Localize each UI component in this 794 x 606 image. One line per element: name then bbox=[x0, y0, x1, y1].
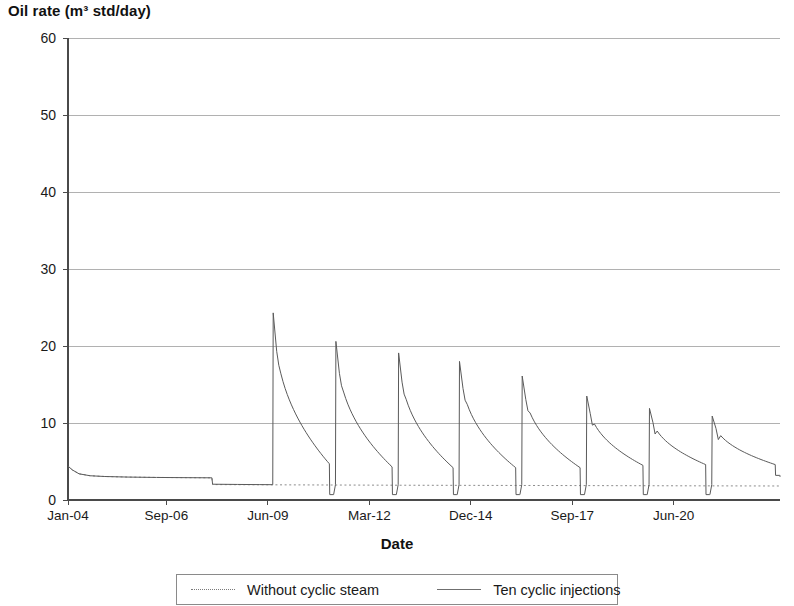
x-tick-label: Jan-04 bbox=[47, 508, 88, 523]
y-axis-ticks bbox=[63, 38, 68, 500]
chart-legend: Without cyclic steam Ten cyclic injectio… bbox=[176, 574, 618, 605]
x-axis-ticks bbox=[68, 500, 674, 505]
gridlines bbox=[68, 38, 780, 500]
x-axis-title: Date bbox=[0, 535, 794, 552]
y-tick-label: 10 bbox=[16, 416, 56, 430]
x-tick-label: Jun-20 bbox=[653, 508, 694, 523]
y-tick-label: 30 bbox=[16, 262, 56, 276]
x-tick-label: Mar-12 bbox=[348, 508, 391, 523]
y-tick-label: 60 bbox=[16, 31, 56, 45]
data-series-layer bbox=[68, 313, 780, 495]
series-without-cyclic-steam bbox=[68, 466, 780, 486]
y-tick-label: 50 bbox=[16, 108, 56, 122]
legend-entry-ten-cyclic-injections: Ten cyclic injections bbox=[437, 582, 620, 598]
series-ten-cyclic-injections bbox=[68, 313, 780, 495]
legend-label-ten-cyclic-injections: Ten cyclic injections bbox=[493, 582, 620, 598]
y-tick-label: 40 bbox=[16, 185, 56, 199]
chart-figure: Oil rate (m³ std/day) 0102030405060 Jan-… bbox=[0, 0, 794, 606]
x-tick-label: Jun-09 bbox=[247, 508, 288, 523]
y-tick-label: 0 bbox=[16, 493, 56, 507]
y-tick-label: 20 bbox=[16, 339, 56, 353]
legend-label-without-cyclic-steam: Without cyclic steam bbox=[247, 582, 379, 598]
x-tick-label: Sep-17 bbox=[550, 508, 594, 523]
x-tick-label: Sep-06 bbox=[145, 508, 189, 523]
legend-line-dotted-icon bbox=[191, 585, 235, 595]
legend-entry-without-cyclic-steam: Without cyclic steam bbox=[191, 582, 379, 598]
legend-line-solid-icon bbox=[437, 585, 481, 595]
x-tick-label: Dec-14 bbox=[449, 508, 493, 523]
